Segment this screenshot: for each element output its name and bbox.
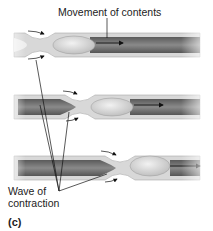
tube-stage-1 (0, 18, 213, 60)
tube-stage-3 (0, 151, 213, 183)
tube-stage-2 (0, 91, 213, 122)
movement-of-contents-label: Movement of contents (58, 6, 161, 18)
wave-label-line2: contraction (8, 197, 59, 209)
wave-label-line1: Wave of (8, 185, 59, 197)
panel-label: (c) (8, 216, 21, 228)
peristalsis-diagram: Movement of contents Wave of contraction… (0, 0, 213, 231)
wave-of-contraction-label: Wave of contraction (8, 185, 59, 209)
